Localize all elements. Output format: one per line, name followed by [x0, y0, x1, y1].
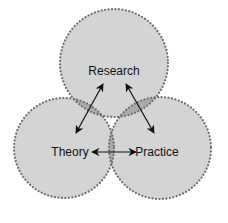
practice-label: Practice — [135, 145, 178, 159]
research-label: Research — [88, 64, 139, 78]
theory-label: Theory — [51, 145, 88, 159]
circle-fills — [14, 9, 211, 199]
venn-diagram — [0, 0, 228, 223]
